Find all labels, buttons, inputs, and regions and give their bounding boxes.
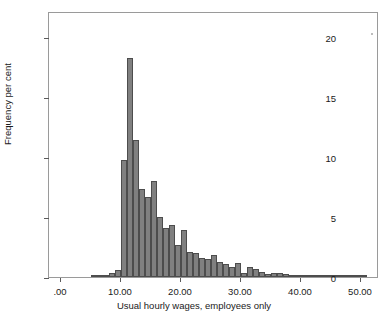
x-axis-tick — [60, 278, 61, 282]
y-axis-tick-label: 20 — [325, 33, 336, 44]
plot-frame — [48, 12, 378, 278]
histogram-figure: Frequency per cent .0010.0020.0030.0040.… — [0, 0, 388, 327]
plot-area — [49, 13, 377, 277]
x-axis-tick-label: 40.00 — [288, 286, 312, 297]
x-axis-tick — [300, 278, 301, 282]
x-axis-tick — [120, 278, 121, 282]
y-axis-tick — [44, 218, 49, 219]
x-axis: .0010.0020.0030.0040.0050.00 — [48, 278, 378, 283]
x-axis-tick-label: 50.00 — [348, 286, 372, 297]
histogram-bar — [361, 275, 367, 277]
y-axis-tick — [44, 98, 49, 99]
y-axis-tick-label: 5 — [331, 213, 336, 224]
y-axis-tick-label: 15 — [325, 93, 336, 104]
x-axis-tick-label: 10.00 — [108, 286, 132, 297]
y-axis-tick — [44, 158, 49, 159]
y-axis — [44, 12, 49, 278]
x-axis-title: Usual hourly wages, employees only — [0, 300, 388, 311]
y-axis-tick-label: 10 — [325, 153, 336, 164]
x-axis-tick — [240, 278, 241, 282]
y-axis-tick — [44, 38, 49, 39]
x-axis-tick — [180, 278, 181, 282]
x-axis-tick-label: 30.00 — [228, 286, 252, 297]
corner-speck-mark — [371, 33, 373, 35]
x-axis-tick-label: .00 — [53, 286, 66, 297]
x-axis-tick-label: 20.00 — [168, 286, 192, 297]
y-axis-tick-label: 0 — [331, 273, 336, 284]
histogram-bars — [49, 13, 377, 277]
x-axis-tick — [360, 278, 361, 282]
y-axis-title: Frequency per cent — [2, 63, 13, 145]
